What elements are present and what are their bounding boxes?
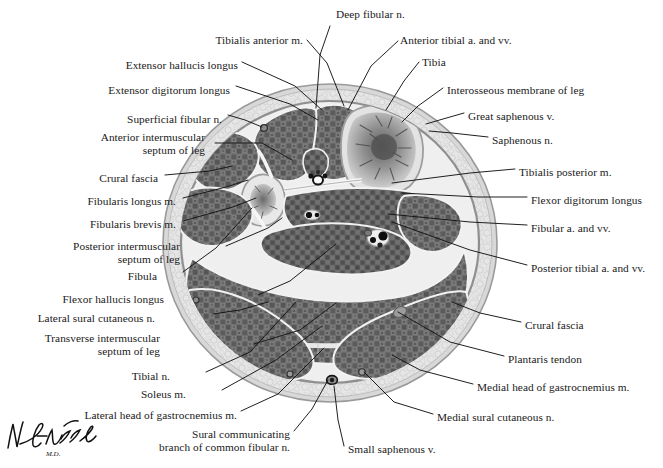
- label-sural-communicating-branch: Sural communicating branch of common fib…: [159, 428, 290, 453]
- label-lateral-sural-cutaneous-n: Lateral sural cutaneous n.: [38, 312, 155, 325]
- label-posterior-tibial-a-vv: Posterior tibial a. and vv.: [531, 262, 645, 275]
- label-medial-sural-cutaneous-n: Medial sural cutaneous n.: [437, 411, 554, 424]
- label-tibialis-anterior-m: Tibialis anterior m.: [215, 34, 303, 47]
- label-small-saphenous-v: Small saphenous v.: [348, 443, 436, 456]
- label-anterior-intermuscular-septum: Anterior intermuscular septum of leg: [101, 131, 205, 156]
- label-crural-fascia-left: Crural fascia: [99, 172, 158, 185]
- label-extensor-hallucis-longus: Extensor hallucis longus: [126, 59, 238, 72]
- label-tibia: Tibia: [422, 56, 446, 69]
- sural-communicating-branch: [287, 371, 293, 377]
- label-flexor-digitorum-longus: Flexor digitorum longus: [531, 194, 642, 207]
- label-medial-head-gastrocnemius: Medial head of gastrocnemius m.: [477, 381, 629, 394]
- fibular-vessels: [304, 210, 320, 220]
- label-plantaris-tendon: Plantaris tendon: [508, 353, 582, 366]
- label-flexor-hallucis-longus: Flexor hallucis longus: [62, 293, 164, 306]
- superficial-fibular-nerve: [261, 125, 268, 132]
- netter-signature: M.D.: [4, 414, 108, 462]
- label-tibial-n: Tibial n.: [132, 370, 170, 383]
- label-tibialis-posterior-m: Tibialis posterior m.: [519, 166, 612, 179]
- lateral-sural-cutaneous-nerve: [193, 297, 199, 303]
- label-anterior-tibial-a-vv: Anterior tibial a. and vv.: [400, 34, 512, 47]
- label-extensor-digitorum-longus: Extensor digitorum longus: [108, 84, 230, 97]
- label-superficial-fibular-n: Superficial fibular n.: [127, 113, 222, 126]
- label-posterior-intermuscular-septum: Posterior intermuscular septum of leg: [73, 240, 180, 265]
- label-crural-fascia-right: Crural fascia: [525, 319, 584, 332]
- label-fibularis-brevis-m: Fibularis brevis m.: [90, 218, 176, 231]
- label-interosseous-membrane: Interosseous membrane of leg: [447, 84, 584, 97]
- label-fibularis-longus-m: Fibularis longus m.: [87, 195, 176, 208]
- label-great-saphenous-v: Great saphenous v.: [468, 110, 554, 123]
- figure-page: Deep fibular n.Tibialis anterior m.Anter…: [0, 0, 663, 468]
- label-fibular-a-vv: Fibular a. and vv.: [531, 222, 611, 235]
- label-saphenous-n: Saphenous n.: [492, 134, 553, 147]
- label-soleus-m: Soleus m.: [141, 388, 186, 401]
- label-deep-fibular-n: Deep fibular n.: [336, 8, 405, 21]
- label-transverse-intermuscular-septum: Transverse intermuscular septum of leg: [45, 332, 160, 357]
- label-fibula: Fibula: [128, 270, 157, 283]
- svg-text:M.D.: M.D.: [45, 450, 61, 458]
